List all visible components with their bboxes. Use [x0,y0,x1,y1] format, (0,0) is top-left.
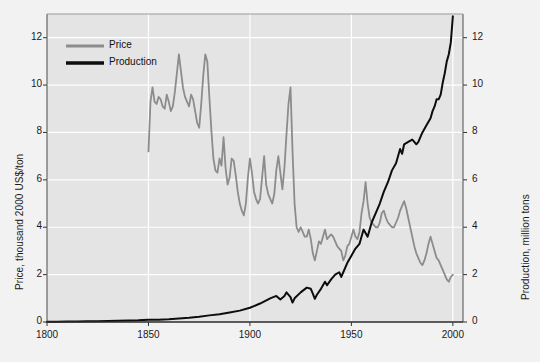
x-tick-label: 1900 [230,329,270,340]
dual-axis-line-chart [0,0,540,362]
legend-label-production: Production [109,56,157,67]
left-tick-label: 12 [18,31,42,42]
right-tick-label: 2 [472,268,478,279]
x-tick-label: 1950 [331,329,371,340]
left-tick-label: 10 [18,78,42,89]
left-tick-label: 6 [18,173,42,184]
right-tick-label: 4 [472,220,478,231]
chart-screenshot: Price, thousand 2000 US$/ton Production,… [0,0,540,362]
left-tick-label: 8 [18,125,42,136]
right-axis-title: Production, million tons [520,194,531,300]
right-tick-label: 10 [472,78,483,89]
x-tick-label: 2000 [433,329,473,340]
right-tick-label: 6 [472,173,478,184]
x-tick-label: 1800 [27,329,67,340]
left-tick-label: 4 [18,220,42,231]
right-tick-label: 12 [472,31,483,42]
left-tick-label: 2 [18,268,42,279]
x-tick-label: 1850 [128,329,168,340]
right-tick-label: 0 [472,315,478,326]
left-tick-label: 0 [18,315,42,326]
right-tick-label: 8 [472,125,478,136]
legend-label-price: Price [109,39,132,50]
